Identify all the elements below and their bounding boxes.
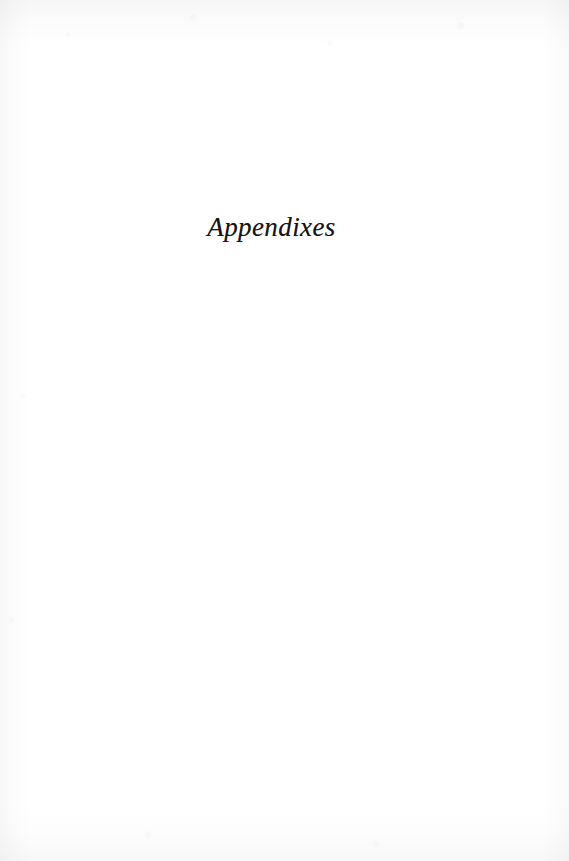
part-title-block: Appendixes — [0, 212, 569, 243]
scan-edge-shading-right — [543, 0, 569, 861]
part-title: Appendixes — [207, 212, 335, 243]
paper-grain-texture — [0, 0, 569, 861]
scan-edge-shading-left — [0, 0, 30, 861]
scan-edge-shading-bottom — [0, 809, 569, 861]
scanned-page: Appendixes — [0, 0, 569, 861]
scan-edge-shading-top — [0, 0, 569, 46]
